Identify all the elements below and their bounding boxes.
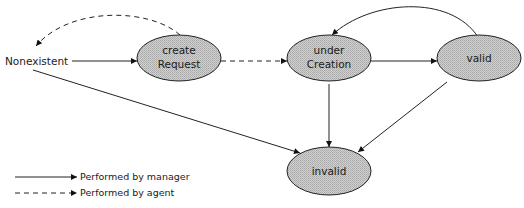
legend-label-agent: Performed by agent xyxy=(80,187,175,198)
node-under-creation-line1: under xyxy=(314,44,345,56)
node-create-request: create Request xyxy=(137,35,221,81)
node-valid-label: valid xyxy=(466,52,491,64)
edge-valid-to-invalid xyxy=(358,82,447,152)
legend-label-manager: Performed by manager xyxy=(80,171,190,182)
node-invalid: invalid xyxy=(287,147,371,195)
node-valid: valid xyxy=(437,35,521,81)
state-diagram: Nonexistent create Request under Creatio… xyxy=(0,0,524,208)
node-under-creation-line2: Creation xyxy=(307,58,351,70)
node-under-creation: under Creation xyxy=(287,35,371,81)
legend-item-manager: Performed by manager xyxy=(15,171,190,182)
state-nonexistent: Nonexistent xyxy=(5,55,68,67)
edges xyxy=(33,7,478,153)
node-invalid-label: invalid xyxy=(312,165,347,177)
edge-valid-to-undercreation xyxy=(332,7,478,37)
node-create-request-line1: create xyxy=(162,44,195,56)
edge-nonexistent-to-invalid xyxy=(33,70,300,153)
legend: Performed by manager Performed by agent xyxy=(15,171,190,198)
legend-item-agent: Performed by agent xyxy=(15,187,175,198)
node-create-request-line2: Request xyxy=(158,58,201,70)
